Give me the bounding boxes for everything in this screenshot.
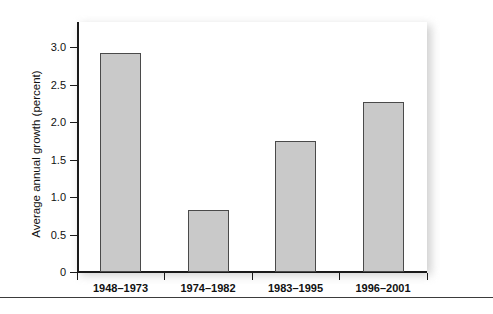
x-tick [339, 273, 340, 280]
x-tick [77, 273, 78, 280]
x-axis-label-3: 1996–2001 [339, 282, 427, 294]
bar-chart-figure: 0 0.5 1.0 1.5 2.0 2.5 3.0 [0, 0, 493, 314]
x-axis-label-2: 1983–1995 [252, 282, 339, 294]
bar-1996-2001[interactable] [363, 102, 404, 272]
bar-1948-1973[interactable] [100, 53, 141, 272]
x-axis-label-0: 1948–1973 [77, 282, 164, 294]
bottom-divider [0, 297, 493, 298]
x-axis-label-1: 1974–1982 [164, 282, 252, 294]
bar-1974-1982[interactable] [188, 210, 229, 272]
y-axis-title: Average annual growth (percent) [30, 34, 42, 274]
bar-1983-1995[interactable] [275, 141, 316, 272]
x-tick [427, 273, 428, 280]
x-tick [164, 273, 165, 280]
x-tick [252, 273, 253, 280]
